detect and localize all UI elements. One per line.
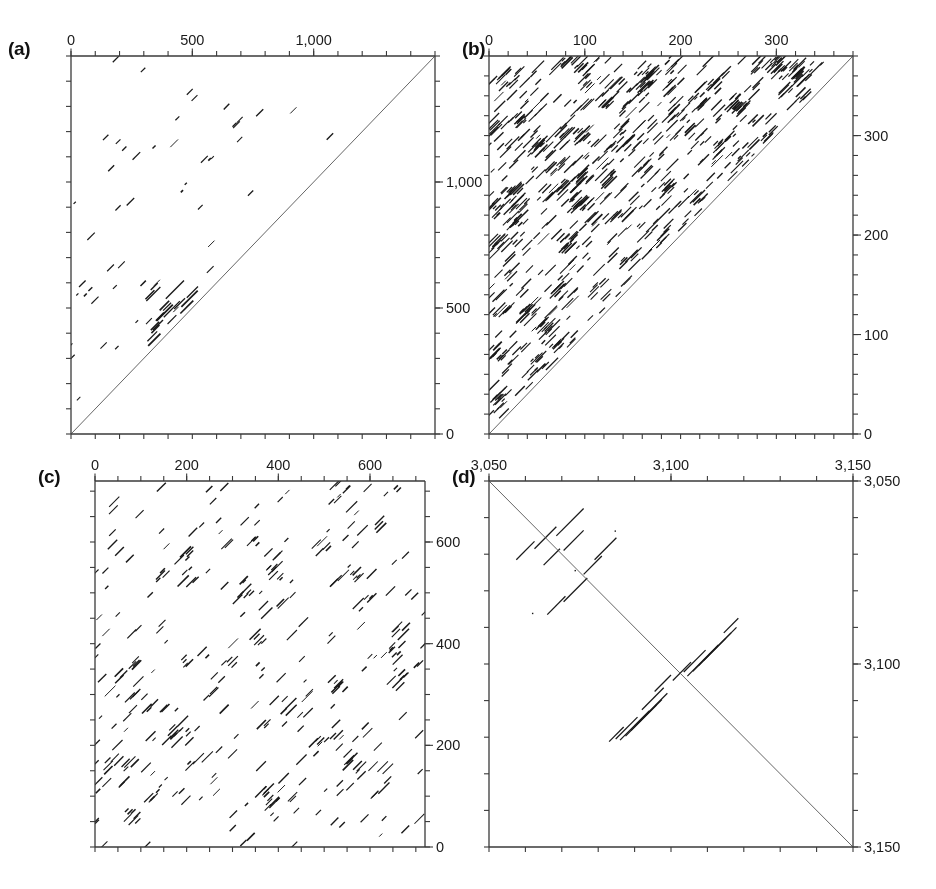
- panel-d: 3,0503,1003,1503,0503,1003,150: [0, 0, 936, 889]
- panel-label-a: (a): [8, 38, 30, 60]
- panel-label-c: (c): [38, 466, 60, 488]
- y-tick-label-d: 3,100: [864, 656, 900, 672]
- y-tick-label-d: 3,150: [864, 839, 900, 855]
- x-tick-label-d: 3,050: [471, 457, 507, 473]
- axes-d: 3,0503,1003,1503,0503,1003,150: [0, 0, 936, 889]
- x-tick-label-d: 3,100: [653, 457, 689, 473]
- panel-label-b: (b): [462, 38, 485, 60]
- dot-plot-figure: 05001,00005001,000 01002003000100200300 …: [0, 0, 936, 889]
- y-tick-label-d: 3,050: [864, 473, 900, 489]
- x-tick-label-d: 3,150: [835, 457, 871, 473]
- panel-label-d: (d): [452, 466, 475, 488]
